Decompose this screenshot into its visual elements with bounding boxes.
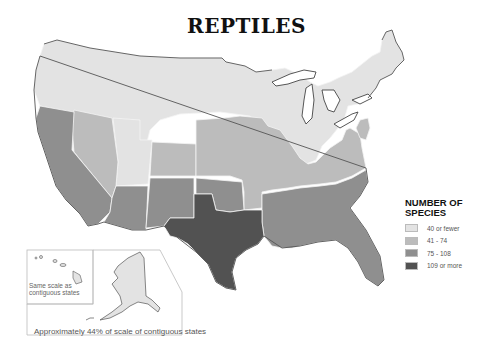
alaska-shape	[100, 252, 160, 320]
legend-item-2: 41 - 74	[405, 235, 463, 248]
legend-label-3: 75 - 108	[427, 250, 451, 257]
legend-label-4: 109 or more	[427, 262, 462, 269]
us-reptile-species-map	[0, 0, 493, 359]
hawaii-note-line1: Same scale as	[29, 282, 80, 289]
aleutian-islands	[86, 318, 94, 320]
hawaii-scale-note: Same scale as contiguous states	[29, 282, 80, 296]
legend-swatch-1	[405, 224, 418, 232]
state-colorado	[150, 142, 196, 176]
legend-item-1: 40 or fewer	[405, 222, 463, 235]
legend-item-3: 75 - 108	[405, 247, 463, 260]
legend: NUMBER OF SPECIES 40 or fewer 41 - 74 75…	[405, 198, 463, 272]
legend-title: NUMBER OF SPECIES	[405, 198, 463, 218]
legend-label-1: 40 or fewer	[427, 225, 460, 232]
legend-label-2: 41 - 74	[427, 237, 447, 244]
alaska-scale-caption: Approximately 44% of scale of contiguous…	[34, 327, 206, 336]
legend-title-line2: SPECIES	[405, 208, 463, 218]
legend-swatch-3	[405, 249, 418, 257]
legend-swatch-2	[405, 237, 418, 245]
hawaii-note-line2: contiguous states	[29, 289, 80, 296]
legend-swatch-4	[405, 262, 418, 270]
legend-item-4: 109 or more	[405, 260, 463, 273]
